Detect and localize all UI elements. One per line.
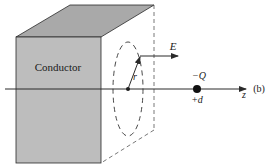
hidden-edge-diagonal [101,130,154,163]
diagram-svg: Conductor E r −Q +d z (b) [0,0,272,166]
axis-label-z: z [241,89,246,100]
panel-label: (b) [253,83,265,95]
field-label: E [169,40,177,52]
point-charge [193,85,201,93]
conductor-label: Conductor [35,61,82,73]
position-label: +d [191,94,204,105]
conductor-front-face [16,37,101,163]
conductor-top-face [16,5,154,37]
radius-label: r [133,71,137,82]
figure-canvas: Conductor E r −Q +d z (b) [0,0,272,166]
charge-label: −Q [192,70,207,81]
